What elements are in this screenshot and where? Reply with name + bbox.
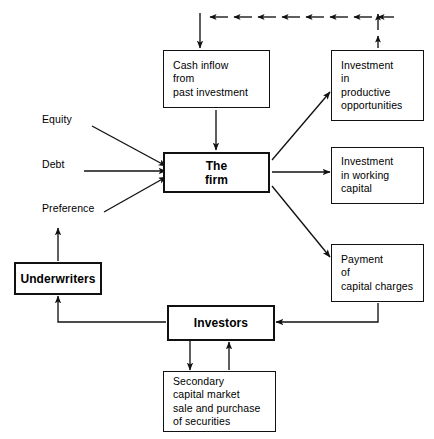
node-underwriters-label: Underwriters xyxy=(16,272,100,286)
node-investors[interactable]: Investors xyxy=(167,305,275,341)
label-debt: Debt xyxy=(42,158,65,170)
node-investment-productive-label: Investment in productive opportunities xyxy=(332,59,402,113)
node-payment-capital-charges-label: Payment of capital charges xyxy=(332,253,413,294)
node-secondary-capital-market[interactable]: Secondary capital market sale and purcha… xyxy=(163,371,276,432)
firm-to-payment xyxy=(272,186,330,257)
node-payment-capital-charges[interactable]: Payment of capital charges xyxy=(331,244,424,302)
firm-to-productive xyxy=(272,92,330,160)
node-investors-label: Investors xyxy=(169,316,273,330)
label-preference: Preference xyxy=(42,202,94,214)
node-secondary-capital-market-label: Secondary capital market sale and purcha… xyxy=(164,375,261,429)
node-investment-working-capital-label: Investment in working capital xyxy=(332,155,393,196)
payment-to-investors xyxy=(276,303,378,322)
node-the-firm-label: The firm xyxy=(165,159,268,187)
node-cash-inflow[interactable]: Cash inflow from past investment xyxy=(163,50,270,108)
preference-to-firm xyxy=(104,177,166,212)
node-the-firm[interactable]: The firm xyxy=(163,152,270,193)
equity-to-firm xyxy=(92,126,166,166)
diagram-canvas: Cash inflow from past investment The fir… xyxy=(0,0,434,439)
node-investment-productive[interactable]: Investment in productive opportunities xyxy=(331,50,424,121)
investors-to-underwriters xyxy=(58,296,166,322)
node-cash-inflow-label: Cash inflow from past investment xyxy=(164,59,248,100)
node-underwriters[interactable]: Underwriters xyxy=(14,262,102,295)
node-investment-working-capital[interactable]: Investment in working capital xyxy=(331,147,424,204)
label-equity: Equity xyxy=(42,113,72,125)
